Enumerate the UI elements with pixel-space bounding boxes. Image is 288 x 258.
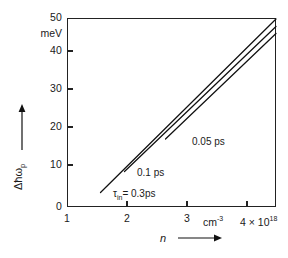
- x-axis-unit-label: cm-3: [203, 213, 223, 228]
- curve-label-005ps: 0.05 ps: [192, 136, 225, 147]
- plot-area: [67, 18, 276, 207]
- curve-label-01ps: 0.1 ps: [137, 167, 164, 178]
- tau-value: = 0.3ps: [122, 188, 155, 199]
- x-tick-label-1: 1: [52, 213, 82, 224]
- x-tick-label-4-with-multiplier: 4 × 1018: [240, 213, 277, 228]
- y-tick-label-0: 0: [28, 201, 62, 212]
- curve-label-tau-03ps: τin= 0.3ps: [113, 188, 156, 203]
- y-tick-label-10: 10: [28, 159, 62, 170]
- x-unit-base: cm: [203, 216, 217, 228]
- x-tick-label-4: 4: [240, 216, 246, 228]
- y-tick-label-30: 30: [28, 83, 62, 94]
- x-tick-label-3: 3: [172, 213, 202, 224]
- y-axis-arrow: [19, 104, 26, 150]
- y-tick-label-50: 50: [28, 12, 62, 23]
- y-tick-label-20: 20: [28, 121, 62, 132]
- x-axis-multiplier: × 10: [249, 216, 270, 228]
- plot-figure: 50 meV 40 30 20 10 0 1 2 3 cm-3 4 × 1018…: [0, 0, 288, 258]
- x-tick-label-2: 2: [112, 213, 142, 224]
- y-axis-unit-label: meV: [28, 28, 62, 39]
- y-axis-title-sub: p: [18, 164, 27, 168]
- x-axis-title: n: [160, 232, 166, 244]
- y-axis-title-base: Δħω: [12, 168, 24, 190]
- x-unit-exponent: -3: [217, 215, 223, 222]
- x-axis-arrow: [178, 235, 222, 242]
- y-tick-label-40: 40: [28, 45, 62, 56]
- y-axis-title: Δħωp: [12, 164, 27, 190]
- x-axis-multiplier-exponent: 18: [270, 215, 278, 222]
